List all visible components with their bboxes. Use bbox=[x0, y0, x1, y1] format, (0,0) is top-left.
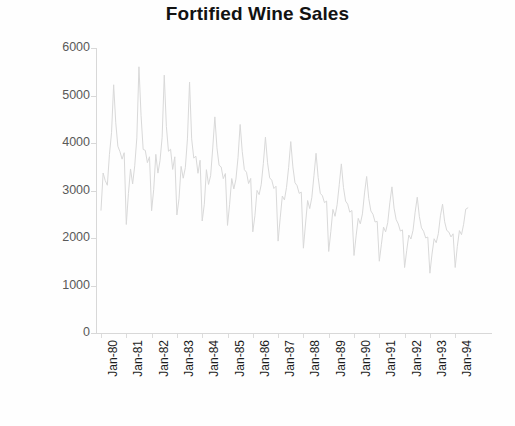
series-fortified-wine-sales bbox=[101, 67, 468, 273]
x-tick-label: Jan-86 bbox=[258, 340, 272, 398]
x-tick-label: Jan-81 bbox=[131, 340, 145, 398]
x-tick-label: Jan-91 bbox=[384, 340, 398, 398]
x-tick-label: Jan-89 bbox=[334, 340, 348, 398]
x-tick-label: Jan-92 bbox=[410, 340, 424, 398]
x-tick-label: Jan-82 bbox=[157, 340, 171, 398]
x-tick-label: Jan-83 bbox=[182, 340, 196, 398]
plot-area bbox=[96, 48, 492, 333]
data-line-svg bbox=[96, 48, 492, 334]
x-tick-label: Jan-80 bbox=[106, 340, 120, 398]
x-tick-label: Jan-84 bbox=[207, 340, 221, 398]
chart-figure: Fortified Wine Sales Thousands of litres… bbox=[0, 0, 515, 426]
x-tick-label: Jan-88 bbox=[308, 340, 322, 398]
x-tick-label: Jan-93 bbox=[435, 340, 449, 398]
x-tick-label: Jan-90 bbox=[359, 340, 373, 398]
x-tick-label: Jan-87 bbox=[283, 340, 297, 398]
x-tick-label: Jan-85 bbox=[233, 340, 247, 398]
x-tick-label: Jan-94 bbox=[460, 340, 474, 398]
